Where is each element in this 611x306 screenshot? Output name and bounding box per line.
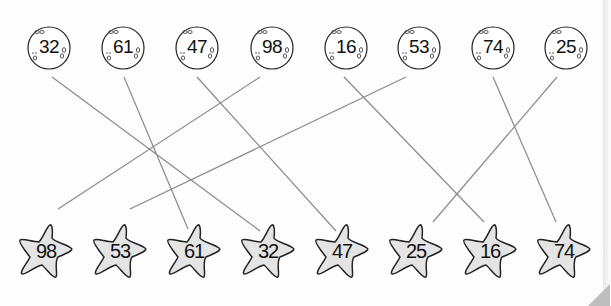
moon-label: 74: [470, 36, 516, 58]
moon-label: 25: [543, 36, 589, 58]
star-label: 98: [16, 240, 76, 263]
line-47: [197, 77, 336, 231]
moon-61[interactable]: 61: [100, 24, 146, 70]
moon-label: 53: [396, 36, 442, 58]
moon-98[interactable]: 98: [249, 24, 295, 70]
star-label: 74: [534, 240, 594, 263]
line-61: [124, 77, 188, 229]
moon-53[interactable]: 53: [396, 24, 442, 70]
moon-47[interactable]: 47: [174, 24, 220, 70]
star-25[interactable]: 25: [386, 222, 446, 280]
moon-label: 98: [249, 36, 295, 58]
star-47[interactable]: 47: [312, 222, 372, 280]
star-32[interactable]: 32: [238, 222, 298, 280]
line-25: [433, 77, 557, 222]
moon-label: 47: [174, 36, 220, 58]
star-98[interactable]: 98: [16, 222, 76, 280]
moon-label: 16: [323, 36, 369, 58]
moon-label: 32: [26, 36, 72, 58]
star-label: 61: [164, 240, 224, 263]
star-label: 25: [386, 240, 446, 263]
star-label: 47: [312, 240, 372, 263]
moon-label: 61: [100, 36, 146, 58]
moon-32[interactable]: 32: [26, 24, 72, 70]
star-61[interactable]: 61: [164, 222, 224, 280]
star-label: 53: [90, 240, 150, 263]
star-53[interactable]: 53: [90, 222, 150, 280]
star-label: 32: [238, 240, 298, 263]
star-74[interactable]: 74: [534, 222, 594, 280]
star-16[interactable]: 16: [460, 222, 520, 280]
line-16: [344, 77, 484, 222]
star-label: 16: [460, 240, 520, 263]
moon-74[interactable]: 74: [470, 24, 516, 70]
line-74: [493, 77, 556, 222]
line-53: [130, 77, 406, 209]
line-98: [58, 77, 260, 209]
moon-16[interactable]: 16: [323, 24, 369, 70]
moon-25[interactable]: 25: [543, 24, 589, 70]
